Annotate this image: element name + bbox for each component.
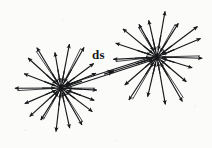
left-source-star [15, 44, 97, 131]
vector-field-figure: ds [0, 0, 212, 148]
diagram-canvas [0, 0, 212, 148]
right-source-star [109, 11, 202, 104]
ds-label: ds [92, 48, 105, 61]
